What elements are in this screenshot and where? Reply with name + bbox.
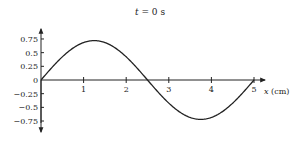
x-tick-label: 5 [251,85,256,94]
y-tick-label: 0.75 [20,35,38,44]
y-tick-label: −0.5 [19,103,38,112]
wave-chart: t = 0 s x (cm) 0.750.50.250−0.25−0.5−0.7… [0,0,297,146]
y-tick-label: 0 [33,76,38,85]
y-tick-label: 0.5 [25,49,38,58]
y-tick-label: −0.75 [13,117,38,126]
x-tick-label: 1 [81,85,86,94]
x-tick-label: 3 [166,85,171,94]
x-tick-label: 2 [124,85,129,94]
x-tick-label: 4 [209,85,214,94]
chart-title: t = 0 s [135,7,165,17]
y-ticks: 0.750.50.250−0.25−0.5−0.75 [13,35,44,126]
y-tick-label: −0.25 [13,90,38,99]
x-axis-label: x (cm) [264,87,289,96]
y-tick-label: 0.25 [20,62,38,71]
